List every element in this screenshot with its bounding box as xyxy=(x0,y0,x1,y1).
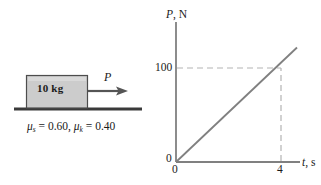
free-body-diagram xyxy=(14,76,142,111)
block-highlight xyxy=(28,77,86,81)
mu-kinetic-equals: = xyxy=(83,120,95,132)
mu-kinetic-value: 0.40 xyxy=(95,120,115,132)
block-mass-label: 10 kg xyxy=(37,83,63,94)
x-tick-label-4: 4 xyxy=(277,164,283,176)
y-axis-unit: , N xyxy=(173,8,187,20)
y-axis-label: P, N xyxy=(166,9,187,21)
y-tick-label-100: 100 xyxy=(155,62,172,74)
mu-static-value: 0.60 xyxy=(48,120,68,132)
x-tick-label-0: 0 xyxy=(172,164,178,176)
physics-figure: 10 kg P μs = 0.60, μk = 0.40 P, N t, s 1… xyxy=(0,0,321,185)
data-line-p-of-t xyxy=(176,48,297,163)
mu-static-equals: = xyxy=(36,120,48,132)
x-axis-unit: , s xyxy=(305,156,315,168)
y-tick-label-0: 0 xyxy=(166,153,172,165)
x-axis-label: t, s xyxy=(302,157,315,169)
pt-graph xyxy=(176,22,300,162)
y-axis-symbol: P xyxy=(166,8,173,20)
friction-coefficients-label: μs = 0.60, μk = 0.40 xyxy=(27,121,115,134)
force-label-p: P xyxy=(104,71,111,83)
